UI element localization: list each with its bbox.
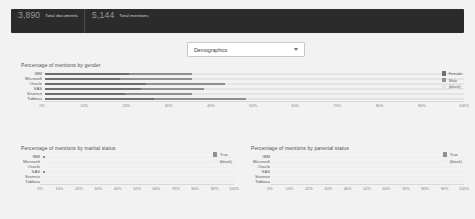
stacked-bar[interactable] (43, 156, 234, 158)
x-axis: 0%10%20%30%40%50%60%70%80%90%100% (20, 101, 464, 110)
bar-segment[interactable] (273, 161, 464, 163)
stacked-bar[interactable] (273, 181, 464, 183)
bar-segment[interactable] (120, 78, 191, 80)
bar-segment[interactable] (192, 73, 464, 75)
axis-tick-label: 20% (75, 186, 83, 191)
kpi-card-total-mentions: 5,144 Total mentions (84, 9, 154, 33)
axis-tick-label: 90% (441, 186, 449, 191)
axis-tick-label: 80% (191, 186, 199, 191)
bar-segment[interactable] (146, 83, 226, 85)
kpi-label: Total documents (45, 13, 78, 18)
bar-track (273, 166, 464, 168)
bar-track (43, 181, 234, 183)
axis-line (40, 184, 234, 185)
legend-item[interactable]: Female (442, 71, 462, 76)
axis-tick-label: 100% (459, 103, 469, 108)
bar-segment[interactable] (225, 83, 464, 85)
bar-segment[interactable] (141, 88, 204, 90)
bar-segment[interactable] (246, 98, 464, 100)
bar-track (43, 156, 234, 158)
legend-item[interactable]: (blank) (213, 159, 232, 164)
bar-track (43, 176, 234, 178)
kpi-card-total-documents: 3,890 Total documents (11, 9, 84, 33)
chart-legend: FemaleMale(blank) (442, 71, 462, 89)
dropdown-selected-value: Demographics (188, 47, 294, 53)
axis-tick-label: 30% (165, 103, 173, 108)
legend-swatch (442, 84, 447, 89)
legend-swatch (213, 159, 218, 164)
bar-segment[interactable] (43, 161, 234, 163)
chart-panel-parental: Percentage of mentions by parental statu… (250, 146, 464, 208)
stacked-bar[interactable] (43, 166, 234, 168)
axis-tick-label: 60% (152, 186, 160, 191)
bar-segment[interactable] (43, 176, 234, 178)
bar-segment[interactable] (43, 181, 234, 183)
axis-tick-label: 70% (402, 186, 410, 191)
x-axis-ticks: 0%10%20%30%40%50%60%70%80%90%100% (270, 184, 464, 193)
bar-track (45, 78, 464, 80)
stacked-bar[interactable] (43, 161, 234, 163)
axis-tick-label: 50% (133, 186, 141, 191)
bar-segment[interactable] (192, 78, 464, 80)
axis-tick-label: 0% (267, 186, 273, 191)
chart-panel-gender: Percentage of mentions by gender IBMMicr… (20, 63, 464, 131)
bar-segment[interactable] (129, 73, 192, 75)
axis-tick-label: 60% (382, 186, 390, 191)
axis-tick-label: 30% (94, 186, 102, 191)
bar-segment[interactable] (125, 93, 192, 95)
bar-segment[interactable] (45, 171, 234, 173)
legend-item[interactable]: Male (442, 78, 462, 83)
stacked-bar[interactable] (45, 73, 464, 75)
bar-segment[interactable] (192, 93, 464, 95)
stacked-bar[interactable] (45, 78, 464, 80)
bar-segment[interactable] (45, 78, 120, 80)
bar-segment[interactable] (273, 166, 464, 168)
stacked-bar[interactable] (43, 171, 234, 173)
stacked-bar[interactable] (45, 83, 464, 85)
bar-segment[interactable] (45, 83, 146, 85)
kpi-header: 3,890 Total documents 5,144 Total mentio… (11, 9, 464, 33)
stacked-bar[interactable] (273, 156, 464, 158)
legend-label: (blank) (220, 159, 232, 164)
bar-segment[interactable] (273, 156, 464, 158)
legend-label: Male (449, 78, 458, 83)
stacked-bar[interactable] (273, 161, 464, 163)
bar-segment[interactable] (45, 88, 141, 90)
x-axis: 0%10%20%30%40%50%60%70%80%90%100% (250, 184, 464, 193)
bar-segment[interactable] (273, 171, 464, 173)
bar-segment[interactable] (273, 176, 464, 178)
legend-label: (blank) (449, 84, 461, 89)
legend-swatch (213, 152, 218, 157)
chart-title-gender: Percentage of mentions by gender (21, 63, 464, 68)
axis-tick-label: 80% (421, 186, 429, 191)
legend-swatch (443, 152, 448, 157)
legend-item[interactable]: True (443, 152, 462, 157)
legend-item[interactable]: (blank) (443, 159, 462, 164)
stacked-bar[interactable] (273, 176, 464, 178)
bar-track (273, 181, 464, 183)
legend-item[interactable]: (blank) (442, 84, 462, 89)
bar-segment[interactable] (154, 98, 246, 100)
x-axis: 0%10%20%30%40%50%60%70%80%90%100% (20, 184, 234, 193)
chart-title-marital: Percentage of mentions by marital status (21, 146, 234, 151)
bar-segment[interactable] (45, 73, 129, 75)
bar-track (43, 166, 234, 168)
stacked-bar[interactable] (43, 181, 234, 183)
bar-segment[interactable] (45, 98, 154, 100)
axis-tick-label: 100% (459, 186, 469, 191)
bar-segment[interactable] (45, 93, 125, 95)
stacked-bar[interactable] (273, 166, 464, 168)
stacked-bar[interactable] (45, 98, 464, 100)
bar-segment[interactable] (43, 166, 234, 168)
demographics-dropdown[interactable]: Demographics (187, 42, 305, 57)
stacked-bar[interactable] (45, 93, 464, 95)
stacked-bar[interactable] (43, 176, 234, 178)
legend-item[interactable]: True (213, 152, 232, 157)
bar-segment[interactable] (204, 88, 464, 90)
bar-segment[interactable] (273, 181, 464, 183)
bar-segment[interactable] (45, 156, 234, 158)
axis-tick-label: 20% (122, 103, 130, 108)
stacked-bar[interactable] (45, 88, 464, 90)
stacked-bar[interactable] (273, 171, 464, 173)
axis-tick-label: 10% (285, 186, 293, 191)
